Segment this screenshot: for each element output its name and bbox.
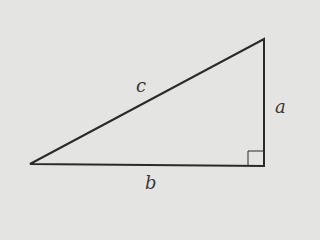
right-angle-marker	[248, 151, 264, 166]
label-leg-a: a	[275, 98, 286, 116]
triangle	[30, 39, 264, 166]
label-leg-b: b	[145, 174, 157, 192]
label-hypotenuse-c: c	[136, 77, 146, 95]
